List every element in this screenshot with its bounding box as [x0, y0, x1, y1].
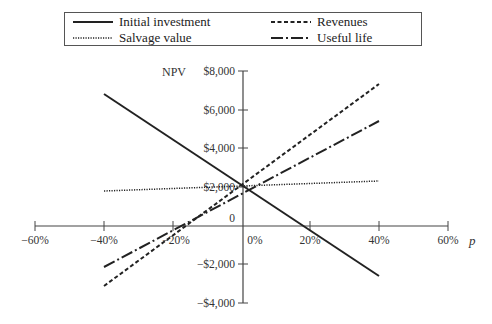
series-revenues	[104, 84, 379, 286]
x-tick-label: −60%	[21, 234, 49, 246]
x-tick-label: 0%	[247, 234, 263, 246]
y-tick-label: $6,000	[203, 104, 235, 117]
y-tick-label: $4,000	[203, 142, 235, 155]
x-tick-label: −20%	[162, 234, 190, 246]
x-tick-label: 60%	[437, 234, 459, 246]
series-salvage-value	[104, 181, 379, 191]
x-axis: −60% −40% −20% 0% 20% 40% 60% p	[21, 221, 476, 248]
series-useful-life	[104, 121, 379, 267]
x-tick-label: −40%	[90, 234, 118, 246]
plot-area: −60% −40% −20% 0% 20% 40% 60% p $8,000 $…	[0, 0, 492, 324]
x-tick-label: 40%	[368, 234, 390, 246]
y-tick-label: 0	[229, 212, 235, 224]
series-lines	[104, 84, 379, 286]
y-tick-label: $8,000	[203, 65, 235, 78]
y-tick-label: −$2,000	[197, 258, 235, 271]
y-axis-label: NPV	[162, 65, 186, 79]
x-axis-label: p	[468, 233, 476, 248]
y-tick-label: −$4,000	[197, 297, 235, 310]
